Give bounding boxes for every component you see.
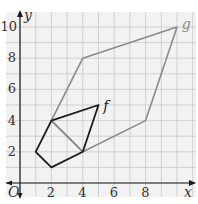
x-axis-label: x [184, 184, 192, 200]
tick-label-x-6: 6 [110, 185, 118, 200]
tick-label-y-4: 4 [8, 113, 16, 128]
tick-label-x-4: 4 [78, 185, 86, 200]
grid-background [6, 12, 196, 197]
tick-label-x-8: 8 [141, 185, 149, 200]
tick-label-y-8: 8 [8, 50, 16, 65]
coordinate-grid-figure: gf 2 4 6 8 x O 2 4 6 8 10 y [0, 0, 198, 204]
y-axis-label: y [23, 7, 33, 23]
grid [6, 12, 196, 197]
tick-label-x-2: 2 [47, 185, 55, 200]
tick-label-y-6: 6 [8, 81, 16, 96]
origin-label: O [8, 184, 20, 200]
tick-label-y-2: 2 [8, 144, 16, 159]
shape-label-g: g [182, 16, 191, 32]
tick-label-y-10: 10 [0, 19, 17, 34]
